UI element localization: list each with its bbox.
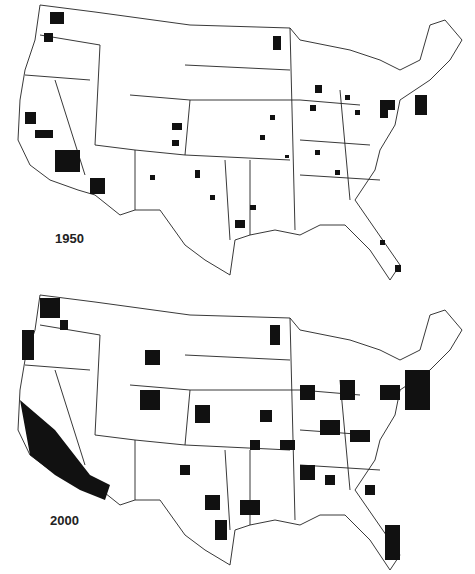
map-2000: 2000: [0, 290, 475, 574]
state-borders: [18, 5, 462, 280]
year-label-2000: 2000: [50, 513, 79, 528]
map-1950: 1950: [0, 0, 475, 285]
year-label-1950: 1950: [55, 231, 84, 246]
us-map-outline-2000: [0, 290, 475, 574]
